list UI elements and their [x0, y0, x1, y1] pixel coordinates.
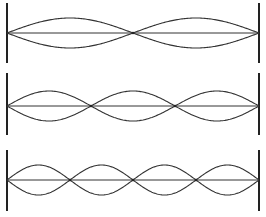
node-point: [132, 179, 135, 182]
node-point: [132, 32, 135, 35]
harmonic-panel-2-loops: [7, 3, 259, 63]
harmonic-panel-3-loops: [7, 73, 259, 135]
node-point: [195, 179, 198, 182]
node-point: [69, 179, 72, 182]
standing-wave-diagram: [0, 0, 266, 217]
harmonic-panel-4-loops: [7, 150, 259, 211]
node-point: [90, 105, 93, 108]
node-point: [174, 105, 177, 108]
